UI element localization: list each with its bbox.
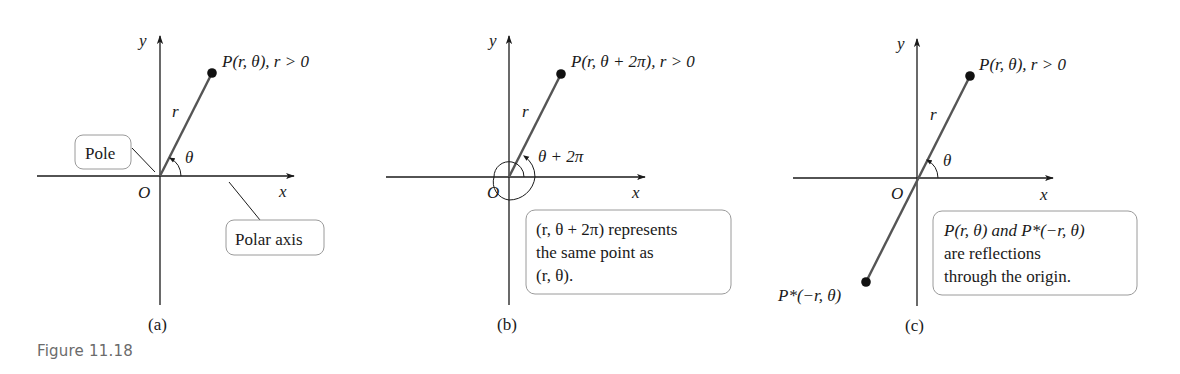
x-axis-label: x bbox=[631, 183, 640, 202]
note-line-2: the same point as bbox=[536, 243, 654, 262]
radius-label: r bbox=[930, 105, 937, 124]
note-line-1: P(r, θ) and P*(−r, θ) bbox=[943, 221, 1085, 240]
panel-a: y x O P(r, θ), r > 0 r θ Pole Polar axis… bbox=[37, 31, 324, 334]
angle-label: θ + 2π bbox=[538, 147, 584, 166]
figure-canvas: y x O P(r, θ), r > 0 r θ Pole Polar axis… bbox=[0, 0, 1180, 374]
y-axis-label: y bbox=[137, 31, 147, 50]
note-line-1: (r, θ + 2π) represents bbox=[536, 220, 677, 239]
origin-label: O bbox=[138, 183, 150, 202]
origin-label: O bbox=[891, 184, 903, 203]
radius-label: r bbox=[172, 102, 179, 121]
panel-c: y x O P(r, θ), r > 0 r θ P*(−r, θ) P(r, … bbox=[777, 34, 1137, 335]
angle-label: θ bbox=[185, 148, 193, 167]
point-p bbox=[965, 71, 975, 81]
point-p bbox=[556, 69, 566, 79]
panel-sublabel: (c) bbox=[905, 316, 924, 335]
x-axis-label: x bbox=[278, 182, 287, 201]
figure-caption: Figure 11.18 bbox=[37, 342, 133, 360]
panel-sublabel: (a) bbox=[148, 315, 167, 334]
note-line-3: (r, θ). bbox=[536, 266, 573, 285]
note-line-3: through the origin. bbox=[944, 267, 1071, 286]
panel-b: y x O P(r, θ + 2π), r > 0 r θ + 2π (r, θ… bbox=[386, 31, 731, 334]
reflected-point-label: P*(−r, θ) bbox=[777, 286, 842, 305]
point-p-star bbox=[861, 277, 871, 287]
angle-label: θ bbox=[943, 151, 951, 170]
point-label: P(r, θ), r > 0 bbox=[978, 55, 1066, 74]
point-label: P(r, θ + 2π), r > 0 bbox=[570, 52, 695, 71]
panel-sublabel: (b) bbox=[497, 315, 517, 334]
y-axis-label: y bbox=[895, 34, 905, 53]
x-axis-label: x bbox=[1039, 185, 1048, 204]
pole-callout-text: Pole bbox=[85, 144, 115, 163]
point-label: P(r, θ), r > 0 bbox=[221, 52, 309, 71]
angle-arc-full-turn bbox=[493, 156, 535, 200]
note-line-2: are reflections bbox=[944, 244, 1041, 263]
origin-label: O bbox=[487, 183, 499, 202]
angle-arc bbox=[927, 160, 938, 178]
polar-axis-leader-line bbox=[229, 182, 260, 220]
angle-arc bbox=[170, 158, 181, 176]
y-axis-label: y bbox=[487, 31, 497, 50]
point-p bbox=[207, 68, 217, 78]
pole-leader-line bbox=[132, 148, 155, 172]
radius-label: r bbox=[522, 102, 529, 121]
polar-axis-callout-text: Polar axis bbox=[235, 230, 303, 249]
